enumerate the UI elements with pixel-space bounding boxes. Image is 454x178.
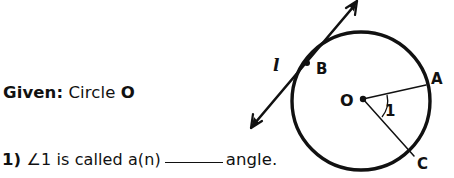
point-label-o: O	[340, 93, 354, 109]
angle-label-1: 1	[385, 104, 395, 119]
question-number: 1)	[2, 150, 21, 169]
geometry-diagram: l B A O 1 C	[240, 0, 454, 178]
point-label-b: B	[316, 62, 327, 77]
line-label-l: l	[273, 57, 279, 74]
answer-blank[interactable]	[165, 162, 223, 163]
given-body: Circle	[68, 83, 115, 102]
radius-oa	[363, 85, 426, 99]
tangent-point-b	[304, 60, 310, 66]
center-point-o	[360, 96, 366, 102]
point-label-a: A	[431, 72, 443, 87]
question-1: 1) ∠1 is called a(n)angle.	[2, 152, 277, 169]
question-text-before-blank: ∠1 is called a(n)	[27, 150, 161, 169]
given-label: Given:	[3, 83, 63, 102]
given-circle-name: O	[121, 83, 135, 102]
worksheet-page: Given: Circle O 1) ∠1 is called a(n)angl…	[0, 0, 454, 178]
given-statement: Given: Circle O	[3, 85, 135, 102]
diagram-svg	[240, 0, 454, 178]
point-label-c: C	[417, 157, 428, 172]
